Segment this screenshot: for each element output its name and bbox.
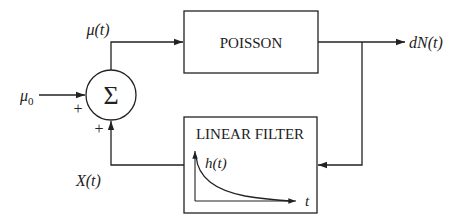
feedback-label: X(t) xyxy=(75,172,101,190)
input-label: μ0 xyxy=(19,87,34,107)
rate-arrow xyxy=(111,42,183,70)
poisson-block: POISSON xyxy=(184,11,318,73)
rate-label: μ(t) xyxy=(85,21,109,39)
plus-sign-bottom: + xyxy=(94,120,103,137)
sigma-icon: Σ xyxy=(103,81,118,110)
filter-label: LINEAR FILTER xyxy=(196,126,304,142)
rate-signal: μ(t) xyxy=(85,21,183,70)
plus-sign-left: + xyxy=(73,100,82,117)
output-signal: dN(t) xyxy=(318,34,443,52)
poisson-label: POISSON xyxy=(220,35,283,51)
output-label: dN(t) xyxy=(409,34,443,52)
linear-filter-block: LINEAR FILTER h(t) t xyxy=(184,117,317,213)
plot-xlabel: t xyxy=(305,193,310,209)
block-diagram: μ0 Σ + + μ(t) POISSON dN(t) LINEAR FILTE… xyxy=(0,0,468,224)
summing-junction: Σ + + xyxy=(73,70,136,137)
feedback-signal: X(t) xyxy=(75,121,184,190)
plot-ylabel: h(t) xyxy=(205,155,227,172)
filter-output-arrow xyxy=(111,121,184,165)
feedback-arrow xyxy=(318,42,362,165)
